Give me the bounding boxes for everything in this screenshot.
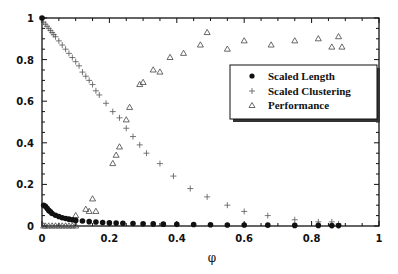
circle-marker xyxy=(265,222,271,228)
circle-marker xyxy=(107,220,113,226)
triangle-marker xyxy=(117,144,123,149)
triangle-marker xyxy=(150,67,156,72)
plus-marker xyxy=(130,134,136,140)
triangle-marker xyxy=(73,212,79,217)
circle-marker xyxy=(73,218,79,224)
circle-marker xyxy=(150,221,156,227)
circle-marker xyxy=(292,223,298,229)
plus-marker xyxy=(86,77,92,83)
circle-marker xyxy=(241,222,247,228)
triangle-marker xyxy=(224,46,230,51)
circle-marker xyxy=(208,222,214,228)
circle-marker xyxy=(225,222,231,228)
circle-marker xyxy=(86,219,92,225)
x-tick-label: 0.6 xyxy=(235,233,253,244)
plus-marker xyxy=(117,115,123,121)
circle-marker xyxy=(161,221,167,227)
circle-marker xyxy=(140,221,146,227)
plus-marker xyxy=(143,150,149,156)
plus-marker xyxy=(170,173,176,179)
triangle-marker xyxy=(140,79,146,84)
triangle-marker xyxy=(336,34,342,39)
plus-marker xyxy=(73,59,79,65)
triangle-marker xyxy=(181,50,187,55)
plus-marker xyxy=(224,202,230,208)
legend-label-scaled-clustering: Scaled Clustering xyxy=(268,85,351,97)
triangle-marker xyxy=(123,117,129,122)
circle-marker xyxy=(80,218,86,224)
y-tick-label: 0.8 xyxy=(16,55,34,66)
triangle-marker xyxy=(127,104,133,109)
y-tick-label: 1 xyxy=(27,13,34,24)
circle-marker xyxy=(39,15,45,21)
series-performance xyxy=(41,29,345,228)
plus-marker xyxy=(76,63,82,69)
circle-marker xyxy=(113,220,119,226)
triangle-marker xyxy=(90,196,96,201)
plus-marker xyxy=(110,109,116,115)
triangle-marker xyxy=(329,44,335,49)
triangle-marker xyxy=(197,42,203,47)
plus-marker xyxy=(63,46,69,52)
x-tick-label: 0.8 xyxy=(303,233,321,244)
x-tick-label: 0.4 xyxy=(168,233,186,244)
plus-marker xyxy=(79,69,85,75)
x-axis-label: φ xyxy=(208,251,216,265)
plus-marker xyxy=(103,100,109,106)
plus-marker xyxy=(69,55,75,61)
triangle-marker xyxy=(241,38,247,43)
triangle-marker xyxy=(315,36,321,41)
circle-marker xyxy=(120,220,126,226)
x-tick-label: 1 xyxy=(376,233,383,244)
circle-marker xyxy=(336,223,342,229)
triangle-marker xyxy=(339,44,345,49)
circle-marker xyxy=(329,223,335,229)
scatter-chart: 00.20.40.60.81 00.20.40.60.81 φ Scaled L… xyxy=(0,0,398,274)
plus-marker xyxy=(157,161,163,167)
circle-marker xyxy=(93,219,99,225)
circle-marker xyxy=(100,220,106,226)
y-tick-label: 0.2 xyxy=(16,179,34,190)
triangle-marker xyxy=(110,160,116,165)
triangle-marker xyxy=(167,54,173,59)
triangle-marker xyxy=(157,69,163,74)
triangle-marker xyxy=(204,29,210,34)
circle-marker xyxy=(130,221,136,227)
legend-circle-icon xyxy=(249,73,254,78)
series-scaled-clustering xyxy=(41,19,342,227)
plus-marker xyxy=(83,73,89,79)
circle-marker xyxy=(316,223,322,229)
triangle-marker xyxy=(113,152,119,157)
legend-label-performance: Performance xyxy=(268,99,329,111)
plus-marker xyxy=(123,125,129,131)
plus-marker xyxy=(137,142,143,148)
legend-label-scaled-length: Scaled Length xyxy=(268,70,335,82)
plus-marker xyxy=(241,208,247,214)
plus-marker xyxy=(96,92,102,98)
circle-marker xyxy=(191,222,197,228)
plus-marker xyxy=(56,38,62,44)
plus-marker xyxy=(292,217,298,223)
x-tick-label: 0 xyxy=(39,233,46,244)
y-tick-labels: 00.20.40.60.81 xyxy=(16,13,34,232)
plus-marker xyxy=(59,42,65,48)
y-tick-label: 0.6 xyxy=(16,96,34,107)
triangle-marker xyxy=(268,42,274,47)
plus-marker xyxy=(204,194,210,200)
plus-marker xyxy=(93,88,99,94)
plus-marker xyxy=(265,213,271,219)
triangle-marker xyxy=(93,208,99,213)
circle-marker xyxy=(174,222,180,228)
plus-marker xyxy=(90,82,96,88)
plus-marker xyxy=(66,50,72,56)
y-tick-label: 0.4 xyxy=(16,138,34,149)
y-tick-label: 0 xyxy=(27,221,34,232)
x-tick-label: 0.2 xyxy=(101,233,119,244)
x-tick-labels: 00.20.40.60.81 xyxy=(39,233,383,244)
plus-marker xyxy=(187,186,193,192)
legend: Scaled Length Scaled Clustering Performa… xyxy=(230,65,380,122)
triangle-marker xyxy=(292,38,298,43)
